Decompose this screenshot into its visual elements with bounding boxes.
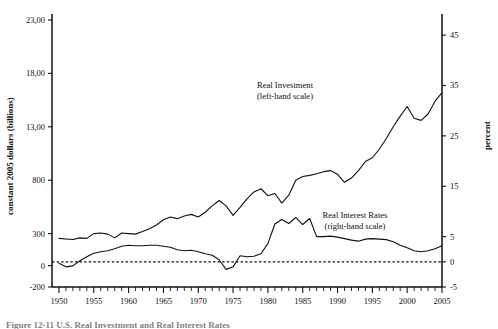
x-tick-label: 1970 [190, 296, 207, 306]
right-tick-label: 25 [450, 131, 459, 141]
x-tick-label: 1980 [259, 296, 276, 306]
right-axis-title: percent [482, 121, 492, 150]
left-tick-label: 13,00 [26, 122, 45, 132]
left-tick-label: 0 [41, 261, 45, 271]
data-series [59, 93, 442, 270]
x-tick-label: 2000 [399, 296, 416, 306]
x-tick-label: 1965 [155, 296, 172, 306]
x-tick-label: 1985 [294, 296, 311, 306]
right-tick-label: 5 [450, 232, 454, 242]
figure-caption: Figure 12-11 U.S. Real Investment and Re… [6, 320, 230, 329]
x-axis: 1950195519601965197019751980198519901995… [50, 287, 450, 306]
right-tick-label: 35 [450, 80, 459, 90]
x-tick-label: 1975 [225, 296, 242, 306]
right-tick-label: -5 [450, 282, 457, 292]
right-axis: 4535251550-5 [442, 14, 459, 292]
left-tick-label: 18,00 [26, 68, 45, 78]
inline-annotations: Real Investment(left-hand scale)Real Int… [257, 80, 388, 231]
right-tick-label: 15 [450, 181, 459, 191]
left-axis: 23,0018,0013,008003000-200 [26, 14, 52, 292]
left-axis-title: constant 2005 dollars (billions) [5, 97, 15, 215]
x-tick-label: 1960 [120, 296, 137, 306]
x-tick-label: 1990 [329, 296, 346, 306]
right-tick-label: 0 [450, 257, 454, 267]
x-tick-label: 2005 [434, 296, 451, 306]
x-tick-label: 1955 [85, 296, 102, 306]
left-tick-label: 800 [32, 175, 45, 185]
left-tick-label: 23,00 [26, 15, 45, 25]
left-tick-label: 300 [32, 229, 45, 239]
right-tick-label: 45 [450, 30, 459, 40]
real-investment-label: Real Investment(left-hand scale) [257, 80, 314, 101]
x-tick-label: 1950 [50, 296, 67, 306]
left-tick-label: -200 [29, 282, 45, 292]
x-tick-label: 1995 [364, 296, 381, 306]
real-interest-label: Real Interest Rates(right-hand scale) [323, 210, 389, 231]
